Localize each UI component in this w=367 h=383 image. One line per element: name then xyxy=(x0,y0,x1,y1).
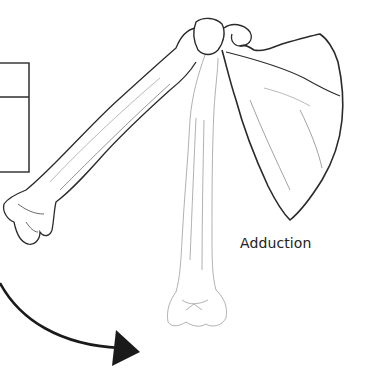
humerus-abducted xyxy=(4,28,196,244)
scapula xyxy=(194,18,343,220)
partial-box xyxy=(0,63,29,172)
adduction-label: Adduction xyxy=(240,235,311,251)
adduction-diagram: Adduction xyxy=(0,0,367,383)
humerus-adducted xyxy=(167,55,226,326)
adduction-arrow-icon xyxy=(0,283,140,366)
